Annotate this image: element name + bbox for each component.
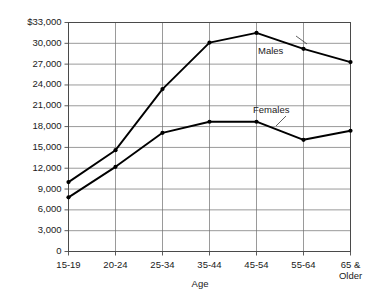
data-point-marker [160, 87, 164, 91]
data-point-marker [207, 41, 211, 45]
x-tick-label: 15-19 [56, 259, 80, 270]
x-tick-label: 55-64 [291, 259, 315, 270]
y-tick-label: 9,000 [38, 183, 62, 194]
data-point-marker [348, 60, 352, 64]
y-tick-label: $33,000 [27, 16, 61, 27]
y-tick-label: 3,000 [38, 224, 62, 235]
y-axis-tick-marks [65, 23, 69, 252]
data-point-marker [66, 195, 70, 199]
x-tick-label: 35-44 [197, 259, 221, 270]
series-label-females: Females [253, 104, 290, 115]
income-by-age-line-chart: 03,0006,0009,00012,00015,00018,00021,000… [0, 0, 373, 296]
y-tick-label: 12,000 [32, 162, 61, 173]
data-point-marker [113, 148, 117, 152]
x-tick-label: 20-24 [103, 259, 127, 270]
x-tick-label-line2: Older [339, 270, 362, 281]
y-tick-label: 24,000 [32, 78, 61, 89]
y-tick-label: 6,000 [38, 203, 62, 214]
x-tick-label: 25-34 [150, 259, 174, 270]
data-point-marker [301, 47, 305, 51]
y-tick-label: 0 [56, 245, 61, 256]
data-point-marker [113, 165, 117, 169]
x-axis-title: Age [192, 278, 209, 289]
x-axis-tick-labels: 15-1920-2425-3435-4445-5455-64Older65 & [56, 259, 362, 281]
x-tick-label: 45-54 [244, 259, 268, 270]
males-leader-line [296, 36, 307, 44]
x-axis-tick-marks [69, 252, 351, 256]
y-tick-label: 27,000 [32, 58, 61, 69]
data-point-marker [348, 129, 352, 133]
series-label-males: Males [258, 45, 284, 56]
y-tick-label: 15,000 [32, 141, 61, 152]
data-point-marker [254, 120, 258, 124]
gridlines [69, 23, 351, 252]
x-tick-label: 65 & [341, 259, 361, 270]
data-point-marker [207, 120, 211, 124]
females-leader-line [276, 116, 286, 126]
data-point-marker [160, 131, 164, 135]
chart-canvas: 03,0006,0009,00012,00015,00018,00021,000… [0, 0, 373, 296]
y-axis-tick-labels: 03,0006,0009,00012,00015,00018,00021,000… [27, 16, 61, 256]
y-tick-label: 30,000 [32, 37, 61, 48]
data-point-marker [254, 31, 258, 35]
data-point-marker [301, 138, 305, 142]
y-tick-label: 21,000 [32, 99, 61, 110]
data-point-marker [66, 180, 70, 184]
y-tick-label: 18,000 [32, 120, 61, 131]
